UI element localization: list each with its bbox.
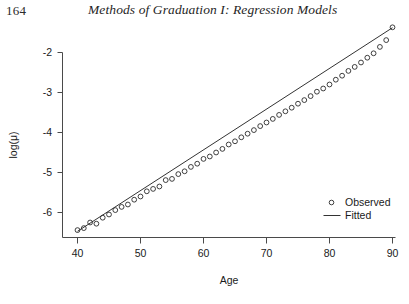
x-tick-label: 50 bbox=[135, 247, 147, 259]
observed-point bbox=[371, 51, 376, 56]
y-axis-ticks bbox=[58, 53, 63, 213]
x-tick-label: 80 bbox=[324, 247, 336, 259]
observed-point bbox=[245, 131, 250, 136]
observed-point bbox=[94, 221, 99, 226]
observed-point bbox=[340, 73, 345, 78]
observed-point bbox=[365, 55, 370, 60]
y-tick-label: -5 bbox=[43, 166, 52, 178]
x-axis-title: Age bbox=[220, 274, 239, 286]
x-tick-label: 60 bbox=[198, 247, 210, 259]
observed-point bbox=[390, 25, 395, 30]
observed-point bbox=[163, 178, 168, 183]
observed-point bbox=[113, 208, 118, 213]
legend-fitted-label: Fitted bbox=[345, 209, 371, 221]
y-axis-tick-labels: -2 -3 -4 -5 -6 bbox=[43, 46, 52, 218]
legend-observed-label: Observed bbox=[345, 196, 391, 208]
x-tick-label: 40 bbox=[72, 247, 84, 259]
observed-point bbox=[277, 113, 282, 118]
observed-point bbox=[220, 147, 225, 152]
observed-point bbox=[151, 187, 156, 192]
observed-point bbox=[157, 184, 162, 189]
x-tick-label: 70 bbox=[261, 247, 273, 259]
observed-point bbox=[352, 65, 357, 70]
book-page: 164 Methods of Graduation I: Regression … bbox=[0, 0, 409, 304]
observed-point bbox=[333, 77, 338, 82]
observed-point bbox=[189, 165, 194, 170]
regression-plot-figure: -2 -3 -4 -5 -6 40 50 60 70 80 bbox=[0, 18, 409, 304]
observed-point bbox=[378, 45, 383, 50]
x-tick-label: 90 bbox=[387, 247, 399, 259]
observed-point bbox=[207, 154, 212, 159]
observed-point bbox=[144, 189, 149, 194]
x-axis-ticks bbox=[78, 238, 393, 244]
legend-observed-marker-icon bbox=[329, 200, 334, 205]
observed-point bbox=[138, 194, 143, 199]
observed-point bbox=[308, 94, 313, 99]
observed-point bbox=[170, 177, 175, 182]
plot-canvas: -2 -3 -4 -5 -6 40 50 60 70 80 bbox=[0, 18, 409, 304]
observed-point bbox=[233, 139, 238, 144]
observed-point bbox=[226, 142, 231, 147]
page-number: 164 bbox=[6, 3, 26, 19]
observed-point bbox=[214, 150, 219, 155]
observed-point bbox=[384, 38, 389, 43]
observed-point bbox=[258, 124, 263, 129]
observed-point bbox=[100, 215, 105, 220]
observed-point bbox=[327, 82, 332, 87]
y-tick-label: -3 bbox=[43, 86, 52, 98]
observed-point bbox=[270, 117, 275, 122]
observed-point bbox=[195, 161, 200, 166]
y-tick-label: -4 bbox=[43, 126, 52, 138]
running-head-title: Methods of Graduation I: Regression Mode… bbox=[88, 2, 337, 18]
x-axis-tick-labels: 40 50 60 70 80 90 bbox=[72, 247, 399, 259]
observed-point bbox=[239, 135, 244, 140]
observed-point bbox=[289, 105, 294, 110]
observed-point bbox=[315, 89, 320, 94]
observed-point bbox=[107, 212, 112, 217]
observed-point bbox=[296, 101, 301, 106]
observed-point bbox=[359, 60, 364, 65]
observed-point bbox=[201, 157, 206, 162]
observed-point bbox=[283, 109, 288, 114]
observed-point bbox=[176, 172, 181, 177]
y-tick-label: -6 bbox=[43, 206, 52, 218]
observed-point bbox=[132, 197, 137, 202]
observed-point bbox=[264, 120, 269, 125]
y-tick-label: -2 bbox=[43, 46, 52, 58]
observed-point bbox=[302, 98, 307, 103]
observed-point bbox=[126, 202, 131, 207]
observed-point bbox=[119, 205, 124, 210]
observed-point bbox=[346, 69, 351, 74]
y-axis-title: log(μ) bbox=[7, 131, 19, 158]
plot-legend: Observed Fitted bbox=[324, 196, 391, 221]
observed-point bbox=[182, 169, 187, 174]
observed-point bbox=[252, 128, 257, 133]
observed-point bbox=[321, 86, 326, 91]
